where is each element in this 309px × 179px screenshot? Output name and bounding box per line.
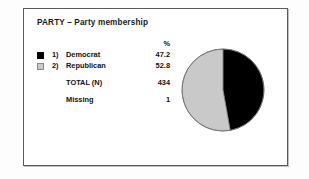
row-label-democrat: Democrat [66, 50, 100, 59]
page-title: PARTY – Party membership [37, 18, 148, 27]
table-row: 1) Democrat 47.2 [30, 50, 176, 61]
table-header-row: % [30, 39, 176, 50]
legend-swatch-republican [37, 63, 44, 70]
table-row: 2) Republican 52.8 [30, 61, 176, 72]
pie-slice-democrat [223, 49, 264, 130]
total-label: TOTAL (N) [66, 78, 102, 87]
legend-swatch-democrat [37, 52, 44, 59]
chart-frame: PARTY – Party membership % 1) Democrat 4… [23, 8, 288, 166]
pie-chart-svg [168, 35, 278, 145]
missing-label: Missing [66, 95, 94, 104]
table-row-total: TOTAL (N) 434 [30, 78, 176, 89]
row-index-democrat: 1) [52, 50, 59, 59]
screenshot-root: PARTY – Party membership % 1) Democrat 4… [0, 0, 309, 179]
row-index-republican: 2) [52, 61, 59, 70]
pie-slice-republican [182, 49, 230, 131]
table-row-missing: Missing 1 [30, 95, 176, 106]
pie-chart [168, 35, 278, 145]
row-label-republican: Republican [66, 61, 106, 70]
statistics-table: % 1) Democrat 47.2 2) Republican 52.8 TO… [30, 39, 176, 106]
